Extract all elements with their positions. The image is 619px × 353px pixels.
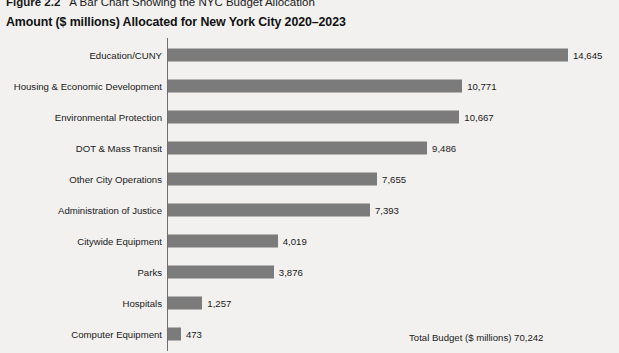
bar-category-label: DOT & Mass Transit (76, 142, 162, 153)
figure-title: A Bar Chart Showing the NYC Budget Alloc… (69, 0, 314, 8)
bar-category-label: Parks (137, 267, 162, 278)
bar-category-label: Other City Operations (69, 173, 162, 184)
bar-category-label: Administration of Justice (58, 205, 162, 216)
bar (168, 172, 377, 185)
bar-row: Citywide Equipment4,019 (0, 226, 619, 257)
bar-value-label: 10,771 (467, 80, 496, 91)
bar-value-label: 14,645 (573, 49, 602, 60)
bar-row: DOT & Mass Transit9,486 (0, 132, 619, 163)
bar-value-label: 4,019 (283, 236, 307, 247)
bar-category-label: Environmental Protection (55, 111, 162, 122)
bar-category-label: Housing & Economic Development (14, 80, 162, 91)
bar-category-label: Citywide Equipment (77, 236, 162, 247)
bar (168, 266, 274, 279)
figure-caption: Figure 2.2A Bar Chart Showing the NYC Bu… (6, 0, 606, 9)
bar (168, 297, 202, 310)
bar-category-label: Education/CUNY (89, 49, 162, 60)
bar-row: Other City Operations7,655 (0, 163, 619, 194)
bar-value-label: 3,876 (279, 267, 303, 278)
caption-block: Figure 2.2A Bar Chart Showing the NYC Bu… (6, 0, 606, 9)
bar (168, 235, 278, 248)
bar-row: Administration of Justice7,393 (0, 195, 619, 226)
total-budget-annotation: Total Budget ($ millions) 70,242 (409, 332, 543, 343)
bar-row: Hospitals1,257 (0, 288, 619, 319)
bar-value-label: 1,257 (207, 298, 231, 309)
bar-value-label: 473 (186, 329, 202, 340)
bar-value-label: 9,486 (432, 142, 456, 153)
bar-row: Environmental Protection10,667 (0, 101, 619, 132)
bar (168, 141, 427, 154)
bar (168, 79, 462, 92)
bar-value-label: 7,655 (382, 173, 406, 184)
bar-row: Education/CUNY14,645 (0, 39, 619, 70)
bar-category-label: Hospitals (123, 298, 162, 309)
figure-number: Figure 2.2 (6, 0, 60, 8)
bar-value-label: 7,393 (375, 205, 399, 216)
bar-row: Parks3,876 (0, 257, 619, 288)
chart-subtitle: Amount ($ millions) Allocated for New Yo… (6, 15, 346, 29)
bar (168, 204, 370, 217)
bar (168, 328, 181, 341)
bar-value-label: 10,667 (464, 111, 493, 122)
bar (168, 48, 568, 61)
chart-plot-area: Education/CUNY14,645Housing & Economic D… (0, 38, 619, 353)
bar-category-label: Computer Equipment (71, 329, 162, 340)
bar-row: Housing & Economic Development10,771 (0, 70, 619, 101)
bar (168, 110, 459, 123)
